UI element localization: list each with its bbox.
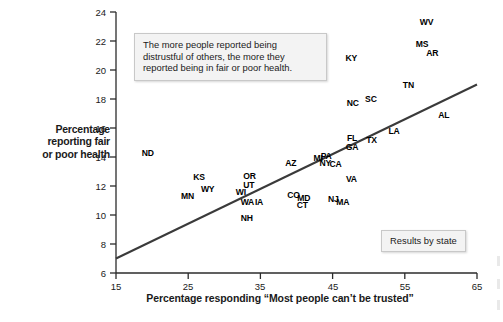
legend-results-by-state: Results by state	[381, 230, 466, 252]
data-point-nh: NH	[241, 213, 253, 223]
y-tick-label-18: 18	[88, 94, 106, 105]
data-point-az: AZ	[285, 158, 296, 168]
x-tick-label-55: 55	[393, 281, 417, 292]
annotation-line-2: distrustful of others, the more they	[143, 51, 319, 63]
y-tick-label-10: 10	[88, 210, 106, 221]
x-tick-label-35: 35	[248, 281, 272, 292]
x-tick-label-25: 25	[176, 281, 200, 292]
data-point-ky: KY	[346, 53, 358, 63]
data-point-nc: NC	[347, 98, 359, 108]
data-point-tn: TN	[403, 80, 414, 90]
data-point-wa: WA	[241, 197, 254, 207]
x-tick-label-15: 15	[104, 281, 128, 292]
y-tick-label-12: 12	[88, 181, 106, 192]
x-axis-ticks	[116, 273, 477, 279]
legend-label: Results by state	[390, 235, 457, 246]
data-point-sc: SC	[365, 94, 377, 104]
data-point-ks: KS	[193, 172, 205, 182]
data-point-al: AL	[438, 110, 449, 120]
data-point-va: VA	[346, 174, 357, 184]
x-tick-label-65: 65	[465, 281, 489, 292]
data-point-ct: CT	[297, 200, 308, 210]
data-point-mn: MN	[181, 191, 194, 201]
data-point-ca: CA	[329, 159, 341, 169]
edge-artifact-1	[497, 256, 500, 266]
y-tick-label-20: 20	[88, 65, 106, 76]
data-point-nd: ND	[142, 148, 154, 158]
annotation-line-3: reported being in fair or poor health.	[143, 62, 319, 74]
data-point-wv: WV	[420, 17, 433, 27]
data-point-wy: WY	[201, 184, 214, 194]
x-tick-label-45: 45	[321, 281, 345, 292]
data-point-ia: IA	[255, 197, 263, 207]
y-tick-label-14: 14	[88, 152, 106, 163]
annotation-line-1: The more people reported being	[143, 39, 319, 51]
y-tick-label-16: 16	[88, 123, 106, 134]
y-tick-label-6: 6	[88, 268, 106, 279]
scatter-plot-figure: Percentage reporting fair or poor health…	[0, 0, 503, 322]
edge-artifact-3	[497, 300, 500, 310]
annotation-callout: The more people reported being distrustf…	[134, 33, 327, 81]
y-tick-label-8: 8	[88, 239, 106, 250]
y-axis-ticks	[110, 12, 116, 273]
data-point-ar: AR	[426, 48, 438, 58]
data-point-ga: GA	[346, 142, 359, 152]
y-tick-label-24: 24	[88, 7, 106, 18]
data-point-or: OR	[243, 171, 256, 181]
data-point-la: LA	[388, 126, 399, 136]
data-point-tx: TX	[366, 135, 377, 145]
y-tick-label-22: 22	[88, 36, 106, 47]
data-point-ma: MA	[336, 197, 349, 207]
data-point-ut: UT	[243, 180, 254, 190]
edge-artifact-2	[497, 279, 500, 289]
